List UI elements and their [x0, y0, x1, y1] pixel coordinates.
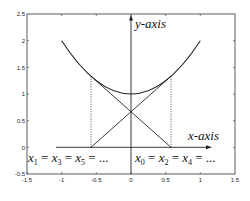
eq-op: = ...: [192, 150, 216, 165]
y-tick-label: -0.5: [15, 171, 26, 177]
x-tick-label: 1.5: [231, 177, 240, 183]
even-iterates-label: x0 = x2 = x4 = ...: [134, 150, 216, 167]
x-tick-label: 0: [129, 177, 133, 183]
eq-op: = ...: [85, 150, 109, 165]
x-tick-label: 1: [199, 177, 203, 183]
x-tick-label: -1: [59, 177, 65, 183]
y-tick-label: 1.5: [17, 65, 26, 71]
newton-cycle-chart: -1.5 -1 -0.5 0 0.5 1 1.5 -0.5 0 0.5 1 1.…: [0, 0, 250, 201]
eq-op: =: [38, 150, 52, 165]
x-axis-label: x-axis: [187, 128, 219, 143]
x-tick-label: 0.5: [162, 177, 171, 183]
odd-iterates-label: x1 = x3 = x5 = ...: [27, 150, 109, 167]
x-tick-label: -0.5: [91, 177, 102, 183]
x-axis: [56, 145, 212, 149]
y-axis-label-text: y-axis: [133, 16, 166, 31]
x-tick-labels: -1.5 -1 -0.5 0 0.5 1 1.5: [22, 177, 240, 183]
eq-op: =: [145, 150, 159, 165]
y-tick-label: 2.5: [17, 11, 26, 17]
y-tick-label: 0.5: [17, 118, 26, 124]
eq-op: =: [61, 150, 75, 165]
x-axis-label-text: x-axis: [187, 128, 219, 143]
y-axis-label: y-axis: [133, 16, 166, 31]
y-tick-label: 0: [22, 145, 26, 151]
x-tick-label: -1.5: [22, 177, 33, 183]
eq-op: =: [168, 150, 182, 165]
y-tick-labels: -0.5 0 0.5 1 1.5 2 2.5: [15, 11, 26, 177]
y-tick-label: 2: [22, 38, 26, 44]
y-tick-label: 1: [22, 91, 26, 97]
